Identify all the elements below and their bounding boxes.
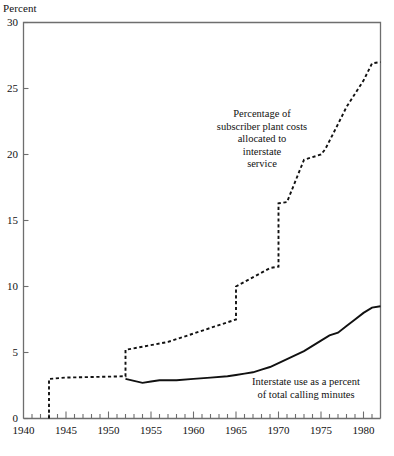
y-tick-label: 5: [2, 347, 18, 358]
x-tick-label: 1980: [347, 425, 381, 436]
y-tick-label: 10: [2, 281, 18, 292]
y-tick-label: 15: [2, 215, 18, 226]
annotation-interstate-usage: Interstate use as a percent of total cal…: [226, 376, 386, 401]
x-tick-label: 1945: [49, 425, 83, 436]
y-axis-title: Percent: [3, 2, 37, 14]
series-interstate-usage-solid: [126, 306, 381, 383]
y-tick-label: 25: [2, 83, 18, 94]
x-tick-label: 1970: [262, 425, 296, 436]
x-tick-label: 1960: [177, 425, 211, 436]
plot-border: [24, 23, 381, 419]
x-tick-label: 1940: [7, 425, 41, 436]
annotation-plant-costs: Percentage of subscriber plant costs all…: [188, 108, 336, 171]
x-tick-label: 1975: [304, 425, 338, 436]
x-tick-label: 1965: [219, 425, 253, 436]
y-tick-label: 30: [2, 17, 18, 28]
chart-figure: Percent 051015202530 1940194519501955196…: [0, 0, 394, 456]
x-tick-label: 1955: [134, 425, 168, 436]
x-tick-label: 1950: [92, 425, 126, 436]
y-tick-label: 20: [2, 149, 18, 160]
y-tick-label: 0: [2, 413, 18, 424]
